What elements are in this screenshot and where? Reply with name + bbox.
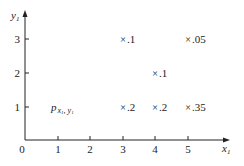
data-point: × .35 — [185, 101, 206, 113]
x-marker-icon: × — [185, 102, 191, 113]
x-axis-title: x1 — [221, 142, 230, 156]
point-probability-label: .2 — [127, 101, 135, 113]
joint-pmf-chart: 0 1 2 3 4 5 3 2 1 y1 x1 px1, y1 × .1 × .… — [0, 0, 244, 166]
x-tick-label: 2 — [87, 143, 93, 155]
data-point: × .2 — [152, 101, 167, 113]
y-axis-title: y1 — [10, 9, 19, 23]
x-marker-icon: × — [152, 68, 158, 79]
point-probability-label: .05 — [192, 33, 206, 45]
x-tick-label: 1 — [55, 143, 61, 155]
x-ticks — [58, 136, 188, 140]
x-marker-icon: × — [152, 102, 158, 113]
pmf-annotation: px1, y1 — [50, 101, 74, 115]
point-probability-label: .35 — [192, 101, 206, 113]
origin-label: 0 — [19, 143, 25, 155]
data-point: × .1 — [152, 67, 167, 79]
data-point: × .1 — [120, 33, 135, 45]
y-axis-arrow-icon — [23, 10, 28, 17]
y-tick-label: 1 — [15, 101, 21, 113]
y-ticks — [25, 39, 29, 107]
point-probability-label: .1 — [159, 67, 167, 79]
x-tick-label: 4 — [152, 143, 158, 155]
x-tick-label: 5 — [185, 143, 191, 155]
point-probability-label: .1 — [127, 33, 135, 45]
point-probability-label: .2 — [159, 101, 167, 113]
y-tick-label: 3 — [15, 33, 21, 45]
x-marker-icon: × — [120, 102, 126, 113]
x-marker-icon: × — [185, 34, 191, 45]
data-point: × .05 — [185, 33, 206, 45]
data-point: × .2 — [120, 101, 135, 113]
x-tick-label: 3 — [120, 143, 126, 155]
x-marker-icon: × — [120, 34, 126, 45]
y-tick-label: 2 — [15, 67, 21, 79]
